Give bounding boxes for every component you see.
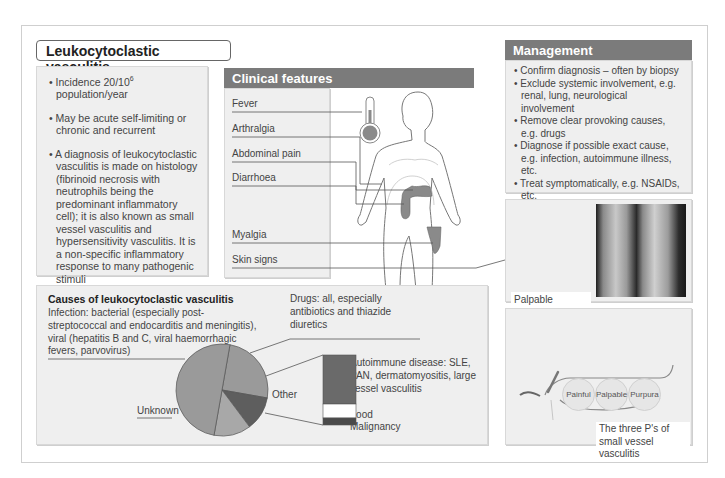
other-bar-malignancy bbox=[323, 418, 356, 425]
leader-line bbox=[265, 413, 323, 425]
other-bar-food bbox=[323, 404, 356, 418]
leader-line bbox=[250, 339, 290, 353]
causes-pie-chart bbox=[0, 0, 725, 478]
leader-line bbox=[266, 355, 323, 376]
other-bar-autoimmune-disease bbox=[323, 355, 356, 404]
